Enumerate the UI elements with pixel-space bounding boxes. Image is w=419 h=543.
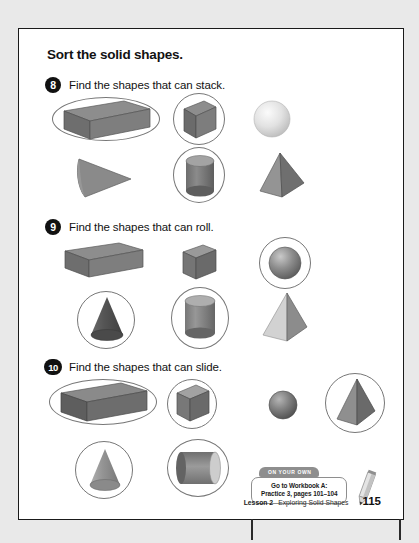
shape-sphere-q8[interactable] (252, 99, 292, 139)
shape-cylinder-q9[interactable] (183, 293, 217, 343)
question-badge-8: 8 (45, 77, 61, 93)
footer-title: Exploring Solid Shapes (278, 499, 348, 506)
question-badge-10: 10 (44, 359, 62, 375)
question-prompt-8: Find the shapes that can stack. (69, 79, 225, 91)
worksheet-page: Sort the solid shapes. 8 Find the shapes… (18, 28, 404, 520)
shape-cone-q10[interactable] (85, 447, 125, 495)
shape-pyramid-q10[interactable] (333, 377, 379, 429)
shape-cube-q8[interactable] (182, 99, 218, 141)
page-title: Sort the solid shapes. (47, 47, 183, 62)
shape-cone-sideways-q8[interactable] (71, 153, 135, 201)
question-prompt-10: Find the shapes that can slide. (69, 361, 222, 373)
shape-rectangular-prism-q8[interactable] (62, 99, 152, 141)
callout-line-1: Go to Workbook A: (261, 482, 337, 490)
shape-cylinder-sideways-q10[interactable] (175, 449, 223, 487)
shape-cube-q9[interactable] (181, 243, 219, 283)
shape-sphere-q9[interactable] (267, 245, 303, 281)
question-prompt-9: Find the shapes that can roll. (69, 221, 214, 233)
crop-mark-right (399, 519, 401, 540)
callout-tab-label: ON YOUR OWN (259, 467, 319, 477)
shape-sphere-q10[interactable] (267, 389, 299, 421)
page-number: 115 (362, 495, 381, 507)
crop-mark-left (251, 519, 253, 540)
page-footer: Lesson 2 Exploring Solid Shapes 115 (244, 495, 381, 507)
shape-rectangular-prism-q9[interactable] (63, 241, 145, 281)
shape-rectangular-prism-q10[interactable] (59, 381, 149, 423)
shape-pyramid-q8[interactable] (256, 151, 308, 201)
shape-cylinder-q8[interactable] (184, 153, 216, 199)
shape-cone-q9[interactable] (87, 295, 127, 345)
question-badge-9: 9 (45, 219, 61, 235)
shape-pyramid-q9[interactable] (259, 291, 311, 345)
shape-cube-q10[interactable] (175, 383, 211, 425)
footer-lesson: Lesson 2 (244, 499, 273, 506)
